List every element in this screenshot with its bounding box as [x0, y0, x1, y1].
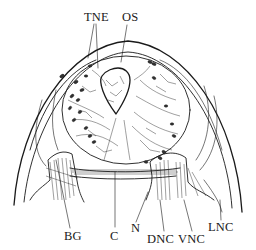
label-vnc: VNC	[178, 232, 205, 246]
right-ganglion-mass	[146, 86, 222, 212]
anatomical-diagram: TNE OS BG C N DNC VNC LNC	[0, 0, 256, 250]
commissure-band	[70, 168, 180, 179]
label-dnc: DNC	[147, 232, 174, 246]
os-structure	[101, 68, 130, 114]
left-ganglion-mass	[30, 90, 84, 202]
label-n: N	[131, 221, 140, 235]
leader-dnc	[160, 200, 164, 231]
leader-lnc	[220, 200, 221, 220]
label-c: C	[110, 229, 119, 243]
fiber-network	[68, 66, 180, 160]
label-tne: TNE	[84, 10, 109, 24]
central-ganglion	[62, 56, 190, 164]
label-os: OS	[122, 10, 138, 24]
label-lnc: LNC	[208, 220, 234, 234]
leader-vnc	[184, 200, 192, 231]
leader-lines	[56, 24, 221, 231]
label-bg: BG	[64, 229, 82, 243]
leader-n	[136, 192, 148, 222]
